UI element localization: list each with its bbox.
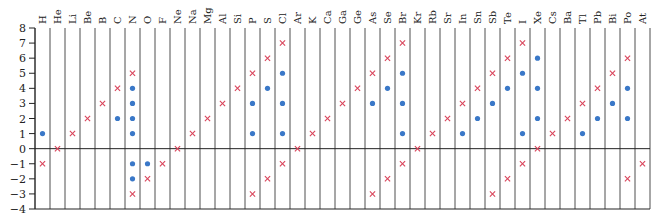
element-label-sr: Sr	[442, 12, 453, 24]
dot-marker	[595, 116, 600, 121]
dot-marker	[400, 71, 405, 76]
element-label-ge: Ge	[352, 10, 363, 24]
element-label-kr: Kr	[412, 12, 423, 24]
y-tick-label: 1	[19, 128, 26, 141]
element-label-be: Be	[82, 11, 93, 24]
cross-marker	[475, 86, 480, 91]
dot-marker	[535, 116, 540, 121]
cross-marker	[400, 161, 405, 166]
element-label-li: Li	[67, 14, 78, 24]
element-label-o: O	[142, 16, 153, 24]
element-label-ga: Ga	[337, 10, 348, 24]
dot-marker	[535, 86, 540, 91]
element-label-f: F	[157, 17, 168, 24]
element-label-k: K	[307, 16, 318, 24]
element-label-cs: Cs	[547, 11, 558, 24]
cross-marker	[115, 86, 120, 91]
element-label-se: Se	[382, 11, 393, 24]
dot-marker	[520, 71, 525, 76]
cross-marker	[325, 116, 330, 121]
dot-marker	[580, 131, 585, 136]
cross-marker	[625, 56, 630, 61]
y-tick-label: 3	[19, 97, 26, 110]
y-tick-label: −3	[10, 188, 26, 201]
dot-marker	[130, 161, 135, 166]
element-label-ar: Ar	[292, 12, 303, 25]
cross-marker	[265, 176, 270, 181]
dot-marker	[370, 101, 375, 106]
element-label-he: He	[52, 9, 63, 24]
y-tick-label: 5	[19, 67, 26, 80]
element-label-s: S	[262, 17, 273, 24]
cross-marker	[400, 40, 405, 45]
element-label-rb: Rb	[427, 10, 438, 24]
dot-marker	[250, 131, 255, 136]
dot-marker	[250, 101, 255, 106]
cross-marker	[130, 191, 135, 196]
element-label-pb: Pb	[592, 11, 603, 24]
element-label-i: I	[517, 20, 528, 24]
dot-marker	[520, 131, 525, 136]
y-tick-label: 6	[19, 52, 26, 65]
element-labels: HHeLiBeBCNOFNeNaMgAlSiPSClArKCaGaGeAsSeB…	[37, 7, 648, 25]
dot-marker	[280, 71, 285, 76]
dot-marker	[280, 101, 285, 106]
dot-marker	[130, 176, 135, 181]
element-label-sn: Sn	[472, 10, 483, 24]
element-label-n: N	[127, 15, 138, 24]
dot-marker	[490, 101, 495, 106]
data-markers	[40, 40, 645, 196]
cross-marker	[385, 56, 390, 61]
cross-marker	[250, 71, 255, 76]
dot-marker	[265, 86, 270, 91]
cross-marker	[100, 101, 105, 106]
cross-marker	[145, 176, 150, 181]
cross-marker	[310, 131, 315, 136]
cross-marker	[460, 101, 465, 106]
y-axis: 876543210−1−2−3−4	[10, 22, 35, 216]
dot-marker	[475, 116, 480, 121]
y-tick-label: 0	[19, 143, 26, 156]
cross-marker	[625, 176, 630, 181]
element-label-sb: Sb	[487, 11, 498, 24]
cross-marker	[70, 131, 75, 136]
cross-marker	[220, 101, 225, 106]
dot-marker	[400, 101, 405, 106]
element-label-ne: Ne	[172, 9, 183, 24]
element-columns	[35, 28, 650, 209]
element-label-na: Na	[187, 9, 198, 24]
cross-marker	[280, 40, 285, 45]
cross-marker	[580, 101, 585, 106]
element-label-po: Po	[622, 12, 633, 24]
element-label-ba: Ba	[562, 11, 573, 24]
element-label-te: Te	[502, 12, 513, 24]
cross-marker	[205, 116, 210, 121]
cross-marker	[430, 131, 435, 136]
cross-marker	[340, 101, 345, 106]
dot-marker	[280, 131, 285, 136]
element-label-bi: Bi	[607, 13, 618, 24]
cross-marker	[490, 71, 495, 76]
element-label-mg: Mg	[202, 7, 213, 24]
element-label-tl: Tl	[577, 14, 588, 24]
element-label-si: Si	[232, 14, 243, 24]
cross-marker	[40, 161, 45, 166]
cross-marker	[280, 161, 285, 166]
element-label-at: At	[637, 13, 648, 25]
cross-marker	[595, 86, 600, 91]
cross-marker	[190, 131, 195, 136]
cross-marker	[370, 191, 375, 196]
cross-marker	[640, 161, 645, 166]
y-tick-label: 8	[19, 22, 26, 35]
y-tick-label: −1	[10, 158, 26, 171]
dot-marker	[130, 131, 135, 136]
cross-marker	[385, 176, 390, 181]
dot-marker	[130, 116, 135, 121]
dot-marker	[505, 86, 510, 91]
cross-marker	[85, 116, 90, 121]
dot-marker	[625, 116, 630, 121]
element-label-br: Br	[397, 12, 408, 24]
y-tick-label: 7	[19, 37, 26, 50]
cross-marker	[520, 161, 525, 166]
dot-marker	[130, 101, 135, 106]
